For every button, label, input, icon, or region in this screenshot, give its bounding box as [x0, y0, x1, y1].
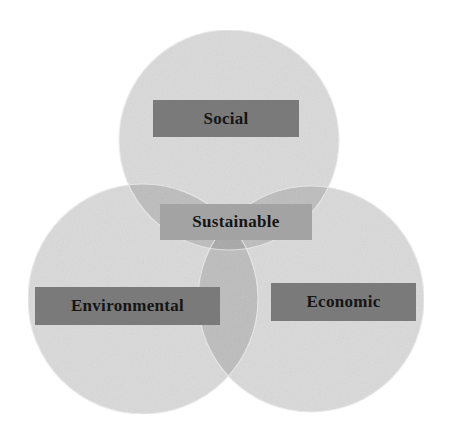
- economic-label-text: Economic: [306, 292, 380, 312]
- economic-label: Economic: [271, 283, 416, 321]
- social-label: Social: [153, 100, 299, 137]
- venn-diagram: Social Sustainable Environmental Economi…: [0, 0, 452, 438]
- social-label-text: Social: [203, 109, 248, 129]
- environmental-label: Environmental: [35, 287, 220, 325]
- sustainable-label: Sustainable: [160, 204, 312, 240]
- sustainable-label-text: Sustainable: [192, 212, 279, 232]
- environmental-label-text: Environmental: [71, 296, 184, 316]
